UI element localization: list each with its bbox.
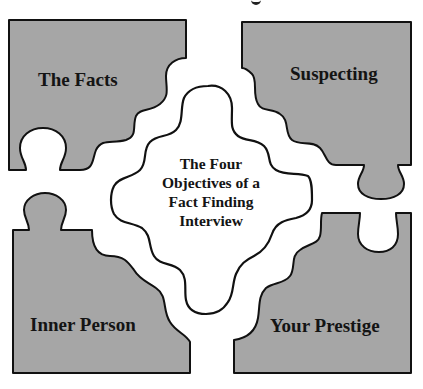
center-title-line-3: Fact Finding (140, 192, 282, 211)
center-title-line-2: Objectives of a (140, 173, 282, 192)
puzzle-diagram: The Facts Suspecting Inner Person Your P… (0, 0, 423, 389)
piece-label-top-left: The Facts (38, 70, 118, 89)
piece-label-bottom-left: Inner Person (30, 315, 136, 334)
piece-label-top-right: Suspecting (290, 64, 378, 83)
center-title-line-1: The Four (140, 154, 282, 173)
center-title-line-4: Interview (140, 211, 282, 230)
piece-label-bottom-right: Your Prestige (270, 316, 380, 335)
center-title: The Four Objectives of a Fact Finding In… (140, 154, 282, 230)
